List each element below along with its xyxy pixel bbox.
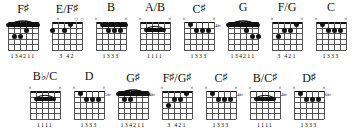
- fret-line: [74, 102, 104, 103]
- finger-dot: [320, 22, 325, 27]
- fretboard: ××1111: [25, 85, 65, 123]
- finger-numbers: 1333: [91, 52, 131, 61]
- string-line: [294, 91, 295, 119]
- string-line: [174, 91, 175, 119]
- string-line: [98, 91, 99, 119]
- fret-line: [140, 50, 170, 51]
- finger-dot: [256, 34, 261, 39]
- fret-line: [8, 50, 38, 51]
- barre-bar: [144, 28, 166, 32]
- fret-line: [272, 50, 302, 51]
- fret-line: [96, 39, 126, 40]
- finger-dot: [18, 34, 23, 39]
- finger-dot: [244, 28, 249, 33]
- fret-line: [52, 50, 82, 51]
- fret-grid: [228, 22, 258, 50]
- string-line: [52, 22, 53, 50]
- fret-line: [52, 39, 82, 40]
- fret-line: [316, 44, 346, 45]
- fretboard: ××1333: [91, 16, 131, 54]
- fret-line: [118, 119, 148, 120]
- fret-line: [162, 119, 192, 120]
- finger-numbers: 1333: [311, 52, 351, 61]
- chord-diagram: B♭/C××1111: [23, 69, 67, 138]
- fret-line: [30, 102, 60, 103]
- finger-dot: [250, 34, 255, 39]
- fret-grid: [74, 91, 104, 119]
- fret-grid: [206, 91, 236, 119]
- string-line: [272, 22, 273, 50]
- chord-diagram: D♯××6fr1333: [287, 69, 331, 138]
- fret-grid: [52, 22, 82, 50]
- finger-numbers: 3 421: [157, 121, 197, 130]
- string-line: [140, 22, 141, 50]
- string-line: [224, 91, 225, 119]
- chord-row-1: F♯134211E/F♯×○○3 42B××1333A/B××1111C♯××4…: [0, 0, 354, 69]
- fretboard: 134211: [223, 16, 263, 54]
- string-line: [316, 22, 317, 50]
- chord-diagram: D××5fr1333: [67, 69, 111, 138]
- finger-dot: [206, 28, 211, 33]
- fretboard: ××3 421: [157, 85, 197, 123]
- finger-dot: [128, 97, 133, 102]
- chord-name: F/G: [278, 0, 297, 16]
- fretboard: ××3 421: [267, 16, 307, 54]
- string-line: [184, 22, 185, 50]
- string-line: [230, 91, 231, 119]
- chord-name: F♯/G♯: [163, 69, 192, 85]
- chord-name: B♭/C: [33, 69, 57, 85]
- fret-grid: [162, 91, 192, 119]
- finger-numbers: 1111: [135, 52, 175, 61]
- string-line: [290, 22, 291, 50]
- fret-line: [184, 50, 214, 51]
- string-line: [312, 91, 313, 119]
- fret-line: [228, 39, 258, 40]
- string-line: [328, 22, 329, 50]
- fretboard: 4fr134211: [113, 85, 153, 123]
- finger-dot: [304, 97, 309, 102]
- fret-line: [184, 39, 214, 40]
- fretboard: ×○○3 42: [47, 16, 87, 54]
- fret-position-label: 4fr: [281, 92, 287, 98]
- fret-grid: [8, 22, 38, 50]
- fretboard: ××4fr1333: [179, 16, 219, 54]
- chord-diagram: C♯××4fr1333: [199, 69, 243, 138]
- finger-dot: [172, 97, 177, 102]
- fret-line: [228, 50, 258, 51]
- fret-grid: [250, 91, 280, 119]
- fret-line: [206, 119, 236, 120]
- finger-dot: [68, 22, 73, 27]
- chord-diagram: C××1333: [309, 0, 353, 69]
- fret-line: [294, 113, 324, 114]
- finger-dot: [122, 97, 127, 102]
- fretboard: ××1111: [135, 16, 175, 54]
- finger-dot: [210, 91, 215, 96]
- finger-dot: [178, 97, 183, 102]
- string-line: [346, 22, 347, 50]
- fret-line: [96, 33, 126, 34]
- finger-dot: [316, 97, 321, 102]
- fret-position-label: 4fr: [215, 23, 221, 29]
- fret-line: [228, 28, 258, 29]
- string-line: [30, 91, 31, 119]
- chord-name: B: [107, 0, 115, 16]
- fretboard: ××1333: [311, 16, 351, 54]
- chord-diagram: F♯134211: [1, 0, 45, 69]
- fret-line: [316, 50, 346, 51]
- finger-dot: [106, 28, 111, 33]
- string-line: [170, 22, 171, 50]
- chord-name: C♯: [192, 0, 205, 16]
- barre-bar: [116, 92, 150, 96]
- chord-name: B/C♯: [253, 69, 277, 85]
- fret-line: [74, 108, 104, 109]
- finger-dot: [298, 91, 303, 96]
- fret-line: [206, 113, 236, 114]
- string-line: [284, 22, 285, 50]
- finger-dot: [134, 91, 139, 96]
- fret-line: [250, 113, 280, 114]
- fret-line: [118, 102, 148, 103]
- fret-grid: [30, 91, 60, 119]
- finger-dot: [188, 22, 193, 27]
- finger-numbers: 134211: [113, 121, 153, 130]
- finger-numbers: 1333: [289, 121, 329, 130]
